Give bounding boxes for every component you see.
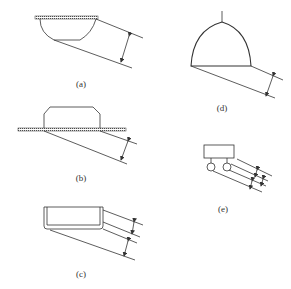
- panel-c-label: (c): [76, 269, 86, 279]
- panel-e-label: (e): [218, 204, 228, 214]
- panel-d-drawing: [191, 11, 283, 98]
- panel-a-label: (a): [76, 79, 86, 89]
- panel-d-label: (d): [217, 103, 228, 113]
- panel-a-drawing: [35, 16, 143, 68]
- panel-b-label: (b): [76, 173, 87, 183]
- panel-e-drawing: [204, 145, 272, 192]
- panel-b-drawing: [18, 107, 137, 164]
- panel-c-drawing: [44, 207, 143, 260]
- diagram-canvas: [0, 0, 291, 289]
